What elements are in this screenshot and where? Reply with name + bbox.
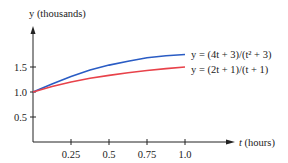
y-tick-label: 0.5 — [14, 112, 27, 123]
x-tick-label: 1.0 — [178, 149, 191, 160]
x-axis-label: t (hours) — [239, 137, 275, 149]
y-axis-label: y (thousands) — [29, 8, 86, 20]
x-tick-label: 0.25 — [62, 149, 80, 160]
x-tick-label: 0.75 — [138, 149, 156, 160]
y-tick-label: 1.0 — [14, 87, 27, 98]
series-red-curve — [33, 67, 185, 92]
y-axis-arrow-icon — [31, 26, 36, 34]
x-axis-arrow-icon — [226, 140, 235, 145]
series2-label: y = (2t + 1)/(t + 1) — [191, 64, 269, 76]
x-tick-label: 0.5 — [102, 149, 115, 160]
chart: 0.5 1.0 1.5 0.25 0.5 0.75 1.0 y (thousan… — [0, 0, 288, 163]
y-tick-label: 1.5 — [14, 62, 27, 73]
series1-label: y = (4t + 3)/(t² + 3) — [191, 49, 272, 61]
